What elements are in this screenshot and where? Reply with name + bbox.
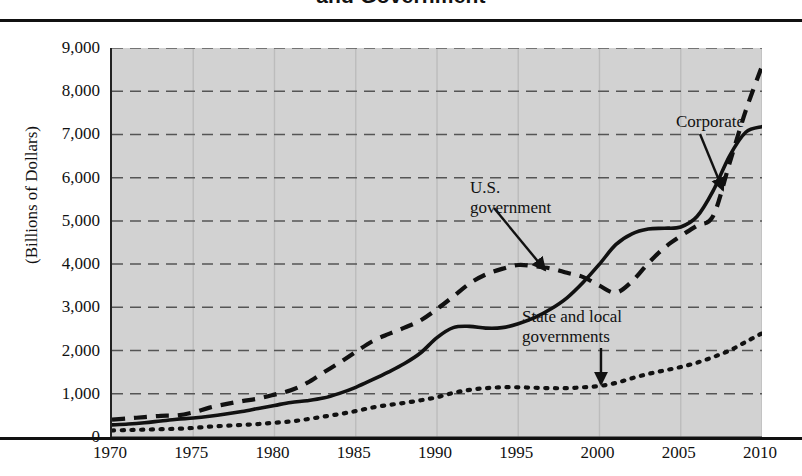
- annotation-us-government-line1: U.S.: [470, 178, 551, 198]
- x-axis-tick-label: 2005: [639, 443, 719, 463]
- x-axis-tick-labels: 197019751980198519901995200020052010: [0, 443, 802, 473]
- y-axis-tick-label: 2,000: [30, 342, 100, 359]
- y-axis-tick-label: 4,000: [30, 255, 100, 272]
- vertical-gridlines: [193, 48, 762, 437]
- annotation-us-government: U.S. government: [470, 178, 551, 218]
- x-axis-tick-label: 1995: [476, 443, 556, 463]
- y-axis-tick-label: 1,000: [30, 385, 100, 402]
- annotation-state-local-line1: State and local: [522, 307, 622, 327]
- y-axis-tick-labels: 9,0008,0007,0006,0005,0004,0003,0002,000…: [28, 0, 100, 476]
- annotation-state-local-line2: governments: [522, 327, 622, 347]
- x-axis-tick-label: 1985: [314, 443, 394, 463]
- chart-title-container: and Government: [0, 0, 802, 16]
- annotation-us-government-line2: government: [470, 198, 551, 218]
- chart-canvas: [112, 48, 762, 437]
- page-title: and Government: [0, 0, 802, 8]
- x-axis-tick-label: 1980: [233, 443, 313, 463]
- x-axis-tick-label: 1975: [151, 443, 231, 463]
- y-axis-tick-label: 9,000: [30, 39, 100, 56]
- x-axis-tick-label: 1970: [70, 443, 150, 463]
- x-axis-tick-label: 2000: [558, 443, 638, 463]
- axis-bottom-rule: [0, 437, 802, 440]
- y-axis-tick-label: 5,000: [30, 212, 100, 229]
- x-axis-tick-label: 2010: [720, 443, 800, 463]
- title-divider-rule: [0, 19, 802, 22]
- x-axis-tick-label: 1990: [395, 443, 475, 463]
- plot-area: [110, 48, 762, 437]
- annotation-state-local: State and local governments: [522, 307, 622, 347]
- y-axis-tick-label: 3,000: [30, 298, 100, 315]
- y-axis-tick-label: 8,000: [30, 82, 100, 99]
- y-axis-tick-label: 7,000: [30, 125, 100, 142]
- annotation-corporate: Corporate: [676, 112, 744, 132]
- y-axis-tick-label: 6,000: [30, 169, 100, 186]
